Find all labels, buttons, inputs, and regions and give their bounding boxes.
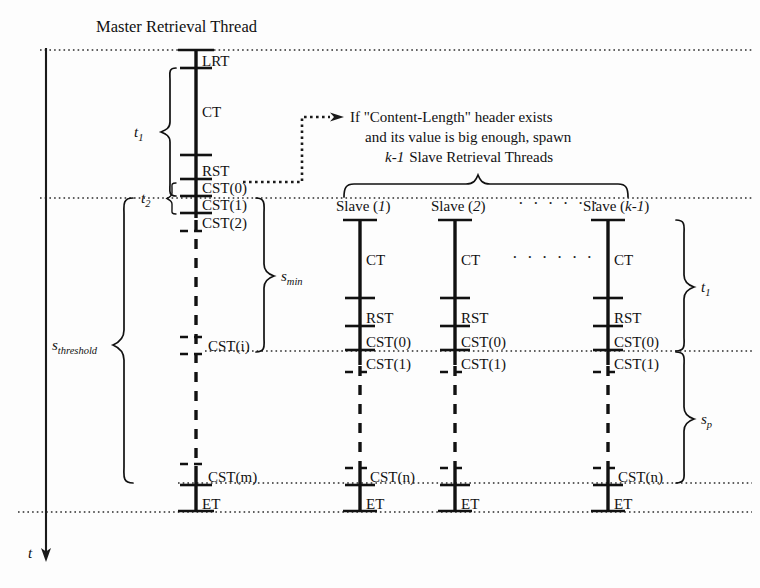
annotation-line-3-rest: Slave Retrieval Threads bbox=[409, 149, 553, 165]
master-label-cstm: CST(m) bbox=[208, 469, 257, 486]
brace-s-min bbox=[256, 198, 274, 352]
brace-s-p bbox=[676, 352, 694, 483]
measure-s-min: smin bbox=[281, 268, 303, 287]
master-label-csti: CST(i) bbox=[208, 338, 250, 355]
master-label-rst: RST bbox=[202, 163, 230, 179]
slave-header-2: Slave (2) bbox=[431, 198, 486, 215]
slavek-label-et: ET bbox=[614, 496, 632, 512]
time-axis-label: t bbox=[28, 545, 33, 561]
time-axis: t bbox=[28, 48, 51, 562]
measure-t1-master: t1 bbox=[134, 124, 143, 143]
annotation-arrowhead bbox=[330, 113, 344, 122]
slave1-label-cstn: CST(n) bbox=[370, 469, 415, 486]
slavek-label-cst0: CST(0) bbox=[614, 334, 659, 351]
page-title: Master Retrieval Thread bbox=[96, 17, 258, 36]
slavek-label-cstn: CST(n) bbox=[618, 469, 663, 486]
annotation-dotted-path bbox=[243, 117, 330, 182]
annotation-line-2: and its value is big enough, spawn bbox=[365, 129, 572, 145]
slavek-label-cst1: CST(1) bbox=[614, 356, 659, 373]
measure-t2-master: t2 bbox=[141, 190, 151, 209]
slave-group-header: Slave (1) Slave (2) · · · · · · Slave (k… bbox=[336, 175, 649, 215]
measure-s-p: sp bbox=[701, 411, 712, 430]
timing-diagram-svg: t Master Retrieval Thread If "Content-Le… bbox=[0, 0, 760, 588]
master-label-cst1: CST(1) bbox=[202, 197, 247, 214]
slave-header-1: Slave (1) bbox=[336, 198, 391, 215]
slave-body-ellipsis: · · · · · · bbox=[512, 248, 595, 267]
slavek-label-ct: CT bbox=[614, 252, 633, 268]
slave1-label-et: ET bbox=[366, 496, 384, 512]
master-label-cst2: CST(2) bbox=[202, 215, 247, 232]
slave2-label-cst1: CST(1) bbox=[461, 356, 506, 373]
slave-thread-1: CT RST CST(0) CST(1) CST(n) ET bbox=[343, 220, 415, 512]
master-label-cst0: CST(0) bbox=[202, 180, 247, 197]
slave2-label-cst0: CST(0) bbox=[461, 334, 506, 351]
slave-thread-k: CT RST CST(0) CST(1) CST(n) ET bbox=[591, 220, 663, 512]
brace-t1-master bbox=[161, 68, 176, 196]
master-measures: t1 t2 sthreshold smin bbox=[52, 68, 303, 483]
master-label-lrt: LRT bbox=[202, 53, 229, 69]
diagram-canvas: t Master Retrieval Thread If "Content-Le… bbox=[0, 0, 760, 588]
slave2-label-et: ET bbox=[461, 496, 479, 512]
master-label-ct: CT bbox=[202, 104, 221, 120]
slave1-label-rst: RST bbox=[366, 310, 394, 326]
slave2-label-ct: CT bbox=[461, 252, 480, 268]
annotation-line-3-italic: k-1 bbox=[385, 149, 404, 165]
annotation-callout: If "Content-Length" header exists and it… bbox=[243, 109, 572, 182]
brace-s-threshold bbox=[113, 198, 133, 483]
slave1-label-cst1: CST(1) bbox=[366, 356, 411, 373]
master-thread: LRT CT RST CST(0) CST(1) CST(2) CST(i) C… bbox=[178, 50, 257, 512]
brace-t1-slave bbox=[676, 220, 694, 351]
annotation-line-1: If "Content-Length" header exists bbox=[350, 109, 553, 125]
slave1-label-cst0: CST(0) bbox=[366, 334, 411, 351]
annotation-line-3: k-1Slave Retrieval Threads bbox=[385, 149, 553, 165]
slave1-label-ct: CT bbox=[366, 252, 385, 268]
slave2-label-rst: RST bbox=[461, 310, 489, 326]
slave-header-k: Slave (k-1) bbox=[583, 198, 649, 215]
measure-s-threshold: sthreshold bbox=[52, 337, 98, 356]
slavek-label-rst: RST bbox=[614, 310, 642, 326]
brace-t2-master bbox=[167, 183, 176, 214]
slave-thread-2: CT RST CST(0) CST(1) ET bbox=[438, 220, 506, 512]
master-label-et: ET bbox=[202, 496, 220, 512]
measure-t1-slave: t1 bbox=[701, 279, 710, 298]
